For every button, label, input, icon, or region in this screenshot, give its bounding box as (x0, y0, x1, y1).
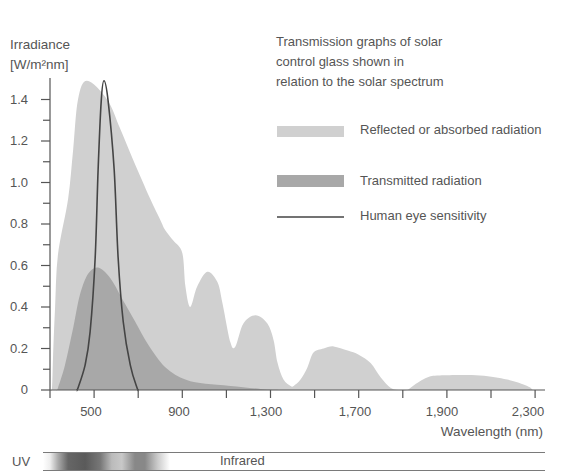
y-tick-label: 1.0 (0, 176, 28, 190)
legend-swatch-reflected (277, 126, 344, 137)
chart-title-line-3: relation to the solar spectrum (276, 75, 444, 89)
x-tick-label: 2,300 (503, 405, 553, 419)
chart-title-line-1: Transmission graphs of solar (276, 35, 442, 49)
x-tick-label: 900 (154, 405, 204, 419)
y-tick-label: 0 (0, 383, 28, 397)
chart-plot-area (0, 0, 565, 471)
y-tick-label: 0.6 (0, 259, 28, 273)
y-tick-label: 1.2 (0, 134, 28, 148)
x-tick-label: 1,300 (241, 405, 291, 419)
y-axis-label-line-1: Irradiance (10, 37, 70, 52)
chart-title-line-2: control glass shown in (276, 55, 404, 69)
x-tick-label: 1,700 (330, 405, 380, 419)
y-tick-label: 0.8 (0, 217, 28, 231)
legend-label-eye-sensitivity: Human eye sensitivity (360, 209, 486, 223)
y-tick-label: 0.2 (0, 342, 28, 356)
x-axis-label: Wavelength (nm) (441, 425, 543, 439)
visible-spectrum-gradient (43, 453, 545, 470)
y-axis-label-line-2: [W/m²nm] (10, 57, 69, 72)
y-tick-label: 0.4 (0, 300, 28, 314)
legend-label-transmitted: Transmitted radiation (360, 174, 482, 188)
uv-label: UV (12, 455, 30, 469)
legend-swatch-transmitted (277, 175, 344, 187)
y-tick-label: 1.4 (0, 93, 28, 107)
spectrum-bar (43, 452, 545, 471)
x-tick-label: 500 (66, 405, 116, 419)
infrared-label: Infrared (220, 454, 265, 468)
legend-label-reflected: Reflected or absorbed radiation (360, 123, 541, 137)
x-tick-label: 1,900 (417, 405, 467, 419)
